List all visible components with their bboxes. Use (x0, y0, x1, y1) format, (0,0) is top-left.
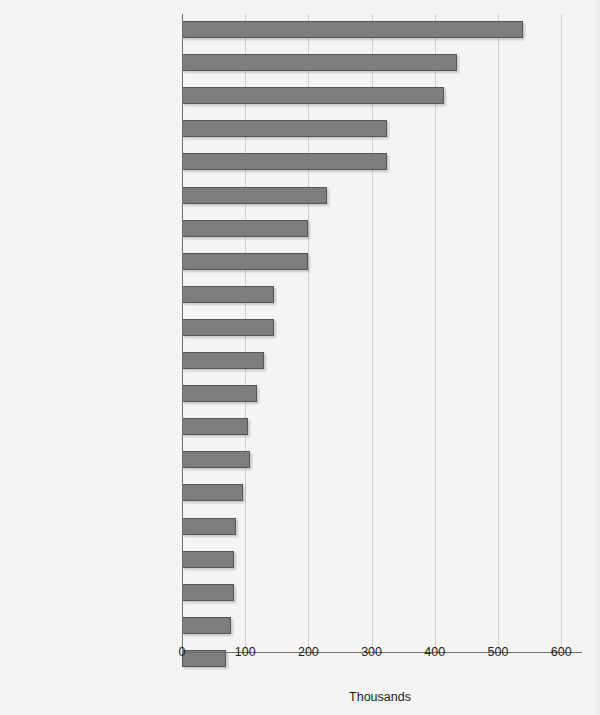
page-edge-shadow (594, 0, 600, 715)
bar (182, 187, 327, 204)
clipped-header-text (0, 0, 600, 9)
bar-row: Computer systems analysts (182, 14, 578, 47)
bar (182, 617, 231, 634)
x-tick-label-500: 500 (468, 645, 528, 659)
x-tick-label-100: 100 (215, 645, 275, 659)
bar (182, 54, 457, 71)
bar (182, 518, 236, 535)
bar-row: Physicians (182, 411, 578, 444)
bar-row: Advertising, marketing, and public relat… (182, 444, 578, 477)
bar-row: Police patrol officers (182, 312, 578, 345)
bar-row: Securities and financial services sales … (182, 378, 578, 411)
x-axis-ticks: 0100200300400500600 (0, 645, 600, 665)
x-tick-label-400: 400 (405, 645, 465, 659)
bar (182, 120, 387, 137)
x-tick-label-0: 0 (152, 645, 212, 659)
bar (182, 319, 274, 336)
x-tick-label-600: 600 (531, 645, 591, 659)
bar-row: Engineering, science, and computer syste… (182, 279, 578, 312)
plot-area: Computer systems analystsRegistered nurs… (182, 14, 578, 652)
bar-rows: Computer systems analystsRegistered nurs… (182, 14, 578, 652)
bar-row: Management analysts (182, 477, 578, 510)
bar-row: Paralegals and legal assistants (182, 544, 578, 577)
bar-row: Registered nurses (182, 47, 578, 80)
bar-row: Electrical and electronics engineers (182, 511, 578, 544)
bar-row: Teachers, special education (182, 345, 578, 378)
bar (182, 87, 444, 104)
bar (182, 451, 250, 468)
bar (182, 153, 387, 170)
bar (182, 352, 264, 369)
bar (182, 551, 234, 568)
bar-chart: Computer systems analystsRegistered nurs… (0, 0, 600, 715)
bar-row: Computer engineers (182, 113, 578, 146)
bar-row: Computer programmers (182, 246, 578, 279)
bar (182, 253, 308, 270)
bar (182, 385, 257, 402)
bar (182, 286, 274, 303)
x-tick-label-300: 300 (342, 645, 402, 659)
bar (182, 418, 248, 435)
bar-row: Writers and editors (182, 577, 578, 610)
y-axis-line (182, 14, 183, 652)
x-tick-label-200: 200 (278, 645, 338, 659)
bar-row: Social workers (182, 180, 578, 213)
x-axis-label: Thousands (182, 690, 578, 704)
bar (182, 21, 523, 38)
bar-row: College and university faculty (182, 213, 578, 246)
bar-row: Teachers, secondary school (182, 146, 578, 179)
bar (182, 220, 308, 237)
bar-row: Artists and commercial artists (182, 610, 578, 643)
bar (182, 584, 234, 601)
bar (182, 484, 243, 501)
bar-row: Computer support specialists (182, 80, 578, 113)
